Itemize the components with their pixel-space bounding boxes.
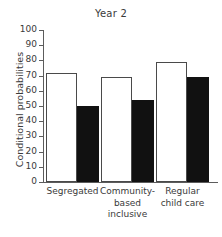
x-axis-labels: SegregatedCommunity-basedinclusiveRegula… — [43, 186, 222, 236]
x-axis-label-1: Segregated — [42, 186, 104, 198]
y-tick-mark — [39, 60, 43, 61]
y-tick-mark — [39, 136, 43, 137]
x-axis-line — [43, 182, 218, 183]
bar-open-2 — [101, 77, 132, 182]
y-axis-line — [43, 30, 44, 183]
bar-filled-2 — [132, 100, 154, 182]
y-tick-mark — [39, 121, 43, 122]
y-tick-mark — [39, 167, 43, 168]
bar-chart: Year 2 Conditional probabilities 0102030… — [0, 0, 222, 237]
x-axis-label-line: based — [97, 198, 159, 210]
x-axis-label-line: Community- — [97, 186, 159, 198]
y-tick-label: 90 — [26, 39, 37, 50]
y-tick-label: 40 — [26, 115, 37, 126]
y-tick-label: 70 — [26, 70, 37, 81]
y-tick-label: 20 — [26, 146, 37, 157]
x-axis-label-line: Regular — [152, 186, 214, 198]
bar-open-1 — [46, 73, 77, 182]
x-axis-label-2: Community-basedinclusive — [97, 186, 159, 221]
y-tick-label: 50 — [26, 100, 37, 111]
y-tick-mark — [39, 45, 43, 46]
y-tick-mark — [39, 106, 43, 107]
y-tick-mark — [39, 152, 43, 153]
y-tick-label: 80 — [26, 54, 37, 65]
y-tick-mark — [39, 30, 43, 31]
y-tick-label: 60 — [26, 85, 37, 96]
bar-filled-3 — [187, 77, 209, 182]
y-axis-title: Conditional probabilities — [14, 35, 25, 185]
bar-filled-1 — [77, 106, 99, 182]
plot-area: 0102030405060708090100 — [43, 30, 218, 183]
y-tick-mark — [39, 76, 43, 77]
y-tick-mark — [39, 91, 43, 92]
y-tick-label: 100 — [20, 24, 37, 35]
x-axis-label-line: inclusive — [97, 209, 159, 221]
y-tick-mark — [39, 182, 43, 183]
chart-title: Year 2 — [0, 8, 222, 19]
x-axis-label-line: child care — [152, 198, 214, 210]
x-axis-label-3: Regularchild care — [152, 186, 214, 209]
y-tick-label: 30 — [26, 130, 37, 141]
bar-open-3 — [156, 62, 187, 182]
x-axis-label-line: Segregated — [42, 186, 104, 198]
y-tick-label: 10 — [26, 161, 37, 172]
y-tick-label: 0 — [31, 176, 37, 187]
